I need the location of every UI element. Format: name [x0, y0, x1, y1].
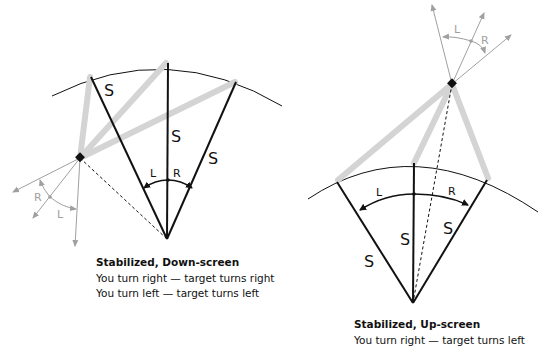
arc-label-r: R: [448, 185, 456, 198]
s-line: [167, 63, 168, 239]
s-line: [167, 82, 236, 239]
target-label-l: L: [57, 208, 64, 221]
up-screen-diagram: S S S L R L R: [308, 5, 538, 303]
side-label-s: S: [208, 149, 218, 168]
target-line: [414, 84, 452, 163]
arc-label-l: L: [150, 167, 157, 180]
target-label-r: R: [481, 34, 489, 47]
target-line: [338, 84, 452, 180]
side-label-s: S: [400, 230, 410, 249]
turn-arc: [168, 180, 192, 188]
caption-title: Stabilized, Up-screen: [354, 317, 525, 333]
turn-arc: [414, 194, 468, 205]
side-label-s: S: [443, 219, 453, 238]
side-label-s: S: [104, 81, 114, 100]
side-label-s: S: [364, 252, 374, 271]
caption-line: You turn right — target turns left: [354, 333, 525, 347]
turn-arc: [144, 180, 168, 188]
arc-label-r: R: [173, 167, 181, 180]
caption-title: Stabilized, Down-screen: [96, 255, 274, 271]
up-screen-caption: Stabilized, Up-screen You turn right — t…: [354, 317, 525, 347]
target-line: [452, 84, 488, 178]
target-label-r: R: [34, 191, 42, 204]
target-label-l: L: [454, 23, 461, 36]
turn-arc: [360, 194, 414, 210]
caption-line: You turn left — target turns left: [96, 286, 274, 302]
arc-label-l: L: [376, 186, 383, 199]
caption-line: You turn right — target turns right: [96, 271, 274, 287]
s-line: [413, 163, 414, 303]
down-screen-caption: Stabilized, Down-screen You turn right —…: [96, 255, 274, 302]
side-label-s: S: [171, 127, 181, 146]
down-screen-diagram: S S S L R R L: [13, 63, 282, 246]
